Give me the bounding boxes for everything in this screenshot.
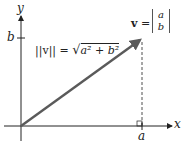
vector-label: v = <box>131 17 150 30</box>
norm-radicand: a² + b² <box>81 43 120 57</box>
vector-norm-diagram: y x b a ||v|| = √a² + b² v = a b <box>0 0 183 143</box>
right-angle-marker <box>137 121 142 126</box>
x-axis-label: x <box>174 117 181 131</box>
column-vector: a b <box>152 9 170 33</box>
sqrt-sign: √ <box>72 42 80 57</box>
a-tick-label: a <box>138 129 145 143</box>
vector-name: v <box>131 17 137 30</box>
vector-component-bottom: b <box>153 21 169 33</box>
norm-formula: ||v|| = √a² + b² <box>35 42 119 57</box>
y-axis-label: y <box>17 1 24 15</box>
vector-equals: = <box>141 17 150 30</box>
norm-lhs: ||v|| = <box>35 44 72 57</box>
vector-component-top: a <box>153 9 169 21</box>
b-tick-label: b <box>7 30 15 44</box>
